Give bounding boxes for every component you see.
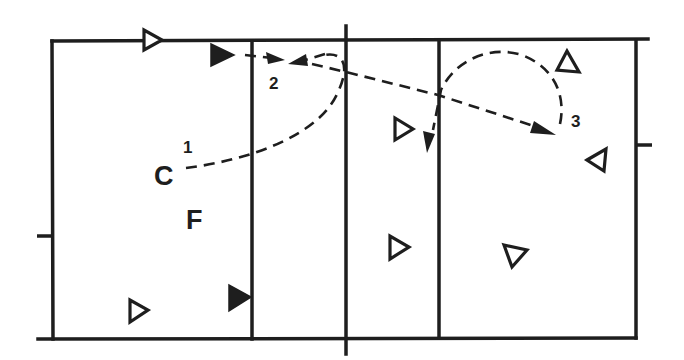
path-1 <box>186 54 344 168</box>
label-step-3: 3 <box>571 113 580 130</box>
label-c: C <box>154 163 174 190</box>
bottom-sideline <box>38 338 636 339</box>
player-open-down-icon <box>504 245 527 267</box>
arrowhead-loop <box>423 131 435 153</box>
player-open-right-icon <box>390 236 409 259</box>
movement-paths <box>186 52 562 168</box>
player-open-right-icon <box>130 300 148 322</box>
path-loop <box>433 52 562 130</box>
player-filled-right-icon <box>229 285 251 311</box>
label-f: F <box>186 207 203 234</box>
arrowhead-3 <box>530 121 556 135</box>
player-open-right-icon <box>395 118 413 140</box>
top-sideline <box>52 39 648 41</box>
player-filled-right-icon <box>211 44 234 66</box>
arrowhead-2b <box>288 54 308 66</box>
volleyball-court-diagram <box>0 0 684 360</box>
left-endline <box>52 41 53 339</box>
path-2b <box>305 54 325 60</box>
player-open-left-icon <box>587 149 606 171</box>
label-step-2: 2 <box>269 75 278 92</box>
arrowhead-2a <box>266 52 285 64</box>
players <box>130 30 606 322</box>
player-open-up-icon <box>557 51 579 72</box>
label-step-1: 1 <box>183 139 192 156</box>
player-open-right-icon <box>144 30 162 50</box>
